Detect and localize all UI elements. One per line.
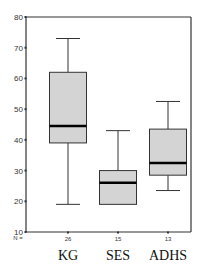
box-kg	[50, 39, 87, 205]
y-axis: 1020304050607080	[14, 13, 26, 237]
y-tick	[25, 47, 27, 49]
y-tick-label: 50	[14, 105, 23, 114]
category-label-kg: KG	[58, 248, 78, 263]
x-axis: N =26KG15SES13ADHS	[13, 232, 187, 264]
y-tick-label: 30	[14, 167, 23, 176]
y-tick-label: 60	[14, 74, 23, 83]
iqr-box	[150, 129, 187, 175]
iqr-box	[100, 171, 137, 205]
box-adhs	[150, 101, 187, 190]
y-tick	[25, 77, 27, 79]
y-tick-label: 70	[14, 44, 23, 53]
x-tick	[117, 232, 119, 234]
n-label: N =	[13, 235, 23, 241]
x-tick	[67, 232, 69, 234]
y-tick	[25, 16, 27, 18]
iqr-box	[50, 72, 87, 143]
y-tick	[25, 200, 27, 202]
box-ses	[100, 131, 137, 205]
box-plot-chart: 1020304050607080 N =26KG15SES13ADHS	[0, 0, 223, 276]
y-tick-label: 40	[14, 136, 23, 145]
category-label-ses: SES	[106, 248, 130, 263]
y-tick	[25, 170, 27, 172]
n-count: 26	[65, 236, 72, 242]
n-count: 13	[165, 236, 172, 242]
y-tick	[25, 139, 27, 141]
y-tick	[25, 108, 27, 110]
y-tick-label: 80	[14, 13, 23, 22]
x-tick	[167, 232, 169, 234]
y-tick	[25, 231, 27, 233]
boxes	[50, 39, 187, 205]
category-label-adhs: ADHS	[149, 248, 187, 263]
n-count: 15	[115, 236, 122, 242]
y-tick-label: 20	[14, 197, 23, 206]
